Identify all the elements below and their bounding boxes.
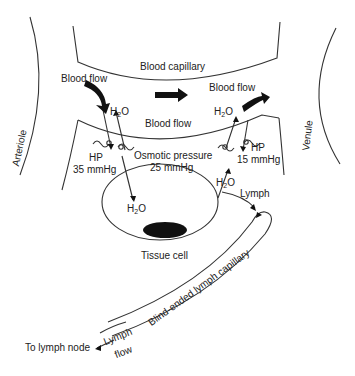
blood-flow-arrow-right xyxy=(242,92,270,112)
blood-flow-label-left: Blood flow xyxy=(61,73,107,84)
diagram-canvas: Blood capillary Blood flow Blood flow Bl… xyxy=(0,0,355,376)
lymph-label: Lymph xyxy=(240,188,270,199)
arteriole-inner-wall xyxy=(62,120,78,190)
h2o-label-top-left: H2O xyxy=(110,106,129,120)
h2o-label-cell: H2O xyxy=(127,203,146,217)
osmotic-pressure-value: 25 mmHg xyxy=(150,162,193,173)
blood-flow-label-center: Blood flow xyxy=(145,118,191,129)
h2o-label-top-right: H2O xyxy=(214,106,233,120)
lymph-capillary-outer xyxy=(108,212,272,336)
venule-inner-wall xyxy=(279,118,284,175)
hp-right-label: HP xyxy=(251,142,265,153)
blood-capillary-label: Blood capillary xyxy=(140,61,205,72)
cell-nucleus xyxy=(143,222,187,238)
hp-right-value: 15 mmHg xyxy=(237,154,280,165)
hp-left-value: 35 mmHg xyxy=(73,164,116,175)
h2o-label-lymph: H2O xyxy=(216,177,235,191)
hp-left-label: HP xyxy=(89,152,103,163)
to-lymph-node-label: To lymph node xyxy=(25,342,90,353)
venule-outer-wall xyxy=(319,28,340,164)
blood-flow-arrow-left xyxy=(84,80,110,114)
osmotic-pressure-label: Osmotic pressure xyxy=(134,150,212,161)
diagram-graphics xyxy=(0,0,355,376)
blood-flow-arrow-center xyxy=(155,88,188,102)
tissue-cell-label: Tissue cell xyxy=(141,250,188,261)
blood-flow-label-right: Blood flow xyxy=(209,82,255,93)
